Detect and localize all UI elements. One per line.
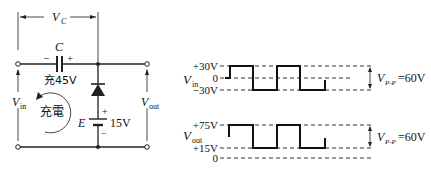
- input-vpp-bracket: [368, 67, 372, 89]
- vin-subscript: in: [20, 102, 26, 111]
- capacitor-symbol: [57, 56, 62, 72]
- charging-label: 充電: [40, 104, 64, 119]
- capacitor-label: C: [55, 40, 64, 54]
- level-out-zero: 0: [213, 152, 219, 164]
- input-vpp-subscript: P-P: [384, 79, 397, 87]
- battery-minus: −: [101, 128, 107, 139]
- level-plus75: +75V: [193, 119, 218, 131]
- input-terminal-bottom: [16, 145, 21, 150]
- capacitor-minus: −: [43, 52, 49, 64]
- level-minus30: −30V: [193, 84, 218, 96]
- output-terminal-top: [145, 62, 150, 67]
- input-waveform: V in +30V 0 −30V V P-P =60V: [183, 60, 426, 96]
- vc-subscript: C: [61, 17, 67, 26]
- capacitor-charge-label: 充45V: [44, 73, 77, 87]
- output-vpp-subscript: P-P: [384, 138, 397, 146]
- level-zero: 0: [213, 72, 219, 84]
- vin-arrow: V in: [12, 69, 26, 141]
- battery-value: 15V: [110, 116, 131, 130]
- input-vpp-value: =60V: [398, 71, 426, 85]
- input-terminal-top: [16, 62, 21, 67]
- capacitor-plus: +: [67, 52, 73, 64]
- input-square-wave: [225, 66, 325, 90]
- clamper-circuit-diagram: V C C − + 充45V: [0, 0, 431, 174]
- output-square-wave: [229, 125, 325, 148]
- vc-dimension: V C: [18, 10, 98, 62]
- output-terminal-bottom: [145, 145, 150, 150]
- circuit: V C C − + 充45V: [12, 10, 160, 149]
- battery-plus: +: [102, 106, 108, 117]
- level-plus30: +30V: [193, 60, 218, 72]
- vout-subscript: out: [149, 102, 160, 111]
- output-vpp-value: =60V: [398, 130, 426, 144]
- vc-label: V: [52, 10, 61, 24]
- battery-label: E: [77, 116, 86, 130]
- vout-arrow: V out: [141, 69, 160, 141]
- output-waveform: V out +75V +15V 0 V P-P =60V: [183, 119, 426, 164]
- output-vpp-bracket: [368, 126, 372, 147]
